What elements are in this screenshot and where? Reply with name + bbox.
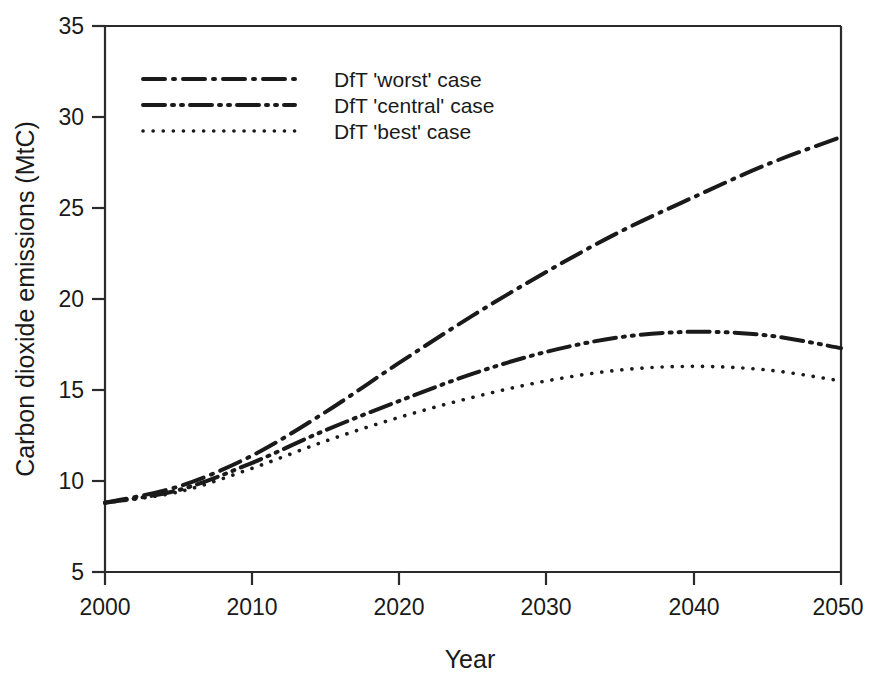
legend: DfT 'worst' case DfT 'central' case DfT …	[143, 68, 495, 143]
x-tick-label-2030: 2030	[520, 594, 571, 620]
x-tick-label-2040: 2040	[668, 594, 719, 620]
y-axis-title: Carbon dioxide emissions (MtC)	[11, 121, 39, 477]
x-axis-title: Year	[445, 645, 496, 673]
y-tick-label-35: 35	[58, 13, 84, 39]
emissions-line-chart: 35 30 25 20 15 10 5 2000 2010 2020 2030 …	[0, 0, 883, 678]
x-tick-label-2050: 2050	[812, 594, 863, 620]
legend-label-central: DfT 'central' case	[334, 94, 495, 117]
x-axis-tick-labels: 2000 2010 2020 2030 2040 2050	[79, 594, 863, 620]
y-tick-label-5: 5	[71, 559, 84, 585]
legend-label-best: DfT 'best' case	[334, 120, 471, 143]
y-tick-label-25: 25	[58, 195, 84, 221]
series-line-best	[105, 366, 841, 503]
x-axis-ticks	[105, 572, 841, 585]
y-tick-label-10: 10	[58, 468, 84, 494]
data-series-group	[105, 137, 841, 503]
chart-page: 35 30 25 20 15 10 5 2000 2010 2020 2030 …	[0, 0, 883, 678]
y-tick-label-20: 20	[58, 286, 84, 312]
y-tick-label-15: 15	[58, 377, 84, 403]
legend-label-worst: DfT 'worst' case	[334, 68, 482, 91]
series-line-worst	[105, 137, 841, 503]
y-axis-tick-labels: 35 30 25 20 15 10 5	[58, 13, 84, 585]
x-tick-label-2020: 2020	[373, 594, 424, 620]
y-axis-ticks	[92, 26, 105, 572]
x-tick-label-2010: 2010	[226, 594, 277, 620]
x-tick-label-2000: 2000	[79, 594, 130, 620]
series-line-central	[105, 332, 841, 503]
y-tick-label-30: 30	[58, 104, 84, 130]
